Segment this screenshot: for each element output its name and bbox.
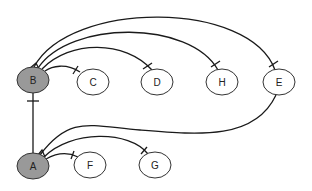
node-c[interactable]: C [77, 69, 109, 95]
node-label: C [89, 77, 96, 88]
node-g[interactable]: G [139, 152, 171, 178]
edge-e-a [40, 95, 276, 155]
diagram-canvas: BCDHEAFG [0, 0, 312, 191]
node-label: F [87, 160, 93, 171]
node-label: E [276, 77, 283, 88]
node-d[interactable]: D [141, 69, 173, 95]
nodes: BCDHEAFG [17, 67, 295, 179]
node-h[interactable]: H [206, 69, 238, 95]
node-label: G [151, 160, 159, 171]
node-label: D [153, 77, 160, 88]
node-b[interactable]: B [17, 67, 49, 93]
node-a[interactable]: A [17, 153, 49, 179]
node-label: H [218, 77, 225, 88]
node-label: B [30, 75, 37, 86]
node-f[interactable]: F [74, 152, 106, 178]
node-label: A [30, 161, 37, 172]
node-e[interactable]: E [263, 69, 295, 95]
